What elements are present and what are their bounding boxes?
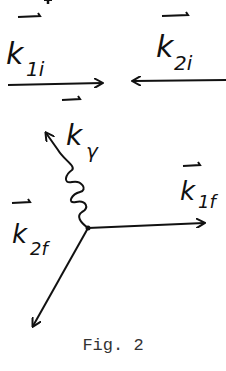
arrow-k1f <box>88 223 204 228</box>
vector-kgamma: k γ <box>46 96 99 228</box>
overarrow-icon <box>183 162 200 166</box>
arrow-k2i <box>133 80 226 81</box>
kgamma-subscript: γ <box>86 139 99 163</box>
vector-k1f: k 1f <box>88 162 218 228</box>
overarrow-icon <box>12 199 30 203</box>
k1f-label: k <box>180 176 196 206</box>
k2f-subscript: 2f <box>30 238 50 259</box>
k1f-subscript: 1f <box>198 191 218 212</box>
figure-caption: Fig. 2 <box>0 336 226 355</box>
vector-k2f: k 2f <box>12 199 88 326</box>
feynman-diagram: k 1i k 2i k γ k 1f k 2f <box>0 0 226 371</box>
overarrow-icon <box>162 12 188 16</box>
vector-k2i: k 2i <box>133 12 226 81</box>
interaction-vertex <box>86 226 91 231</box>
k1i-subscript: 1i <box>26 57 45 81</box>
k1i-label: k <box>6 36 25 71</box>
kgamma-label: k <box>66 119 84 152</box>
k2f-label: k <box>12 219 28 249</box>
overarrow-icon <box>62 96 80 100</box>
k2i-subscript: 2i <box>174 51 193 75</box>
top-fragment-mark <box>44 0 52 4</box>
overarrow-icon <box>18 13 40 17</box>
arrow-k1i <box>8 83 102 85</box>
vector-k1i: k 1i <box>6 13 102 85</box>
k2i-label: k <box>156 29 175 64</box>
